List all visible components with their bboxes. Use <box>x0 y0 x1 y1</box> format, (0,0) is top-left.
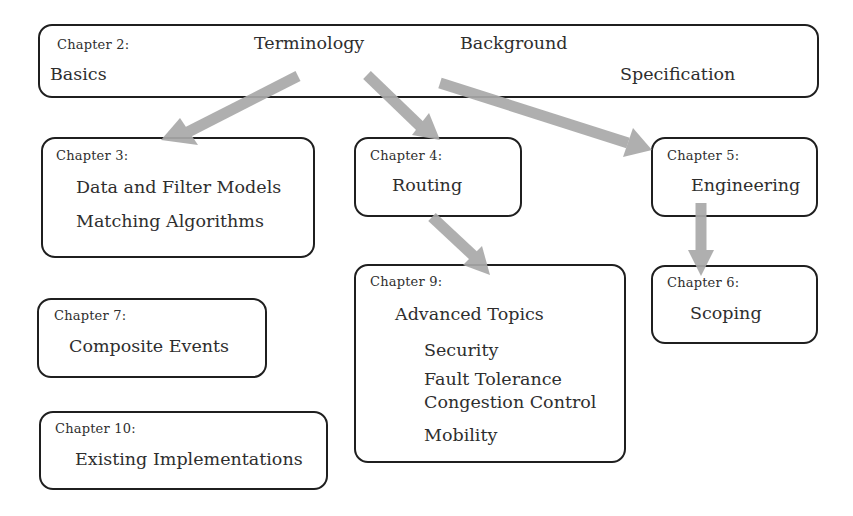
subtopic-security: Security <box>424 340 498 360</box>
subtopic-mobility: Mobility <box>424 425 497 445</box>
topic-data-filter-models: Data and Filter Models <box>76 177 281 197</box>
chapter-5-box: Chapter 5: Engineering <box>651 137 818 217</box>
topic-background: Background <box>460 33 568 53</box>
chapter-10-label: Chapter 10: <box>55 421 136 436</box>
chapter-5-label: Chapter 5: <box>667 148 739 163</box>
chapter-6-label: Chapter 6: <box>667 275 739 290</box>
topic-advanced-topics: Advanced Topics <box>395 304 544 324</box>
chapter-7-label: Chapter 7: <box>54 308 126 323</box>
topic-composite-events: Composite Events <box>69 336 229 356</box>
chapter-9-box: Chapter 9: Advanced Topics Security Faul… <box>354 264 626 463</box>
chapter-3-box: Chapter 3: Data and Filter Models Matchi… <box>41 137 315 258</box>
chapter-4-box: Chapter 4: Routing <box>354 137 522 217</box>
chapter-3-label: Chapter 3: <box>56 148 128 163</box>
topic-engineering: Engineering <box>691 175 800 195</box>
topic-basics: Basics <box>50 64 107 84</box>
subtopic-congestion-control: Congestion Control <box>424 392 596 412</box>
topic-scoping: Scoping <box>690 303 762 323</box>
chapter-6-box: Chapter 6: Scoping <box>651 265 818 344</box>
topic-routing: Routing <box>392 175 462 195</box>
topic-matching-algorithms: Matching Algorithms <box>76 211 264 231</box>
chapter-4-label: Chapter 4: <box>370 148 442 163</box>
subtopic-fault-tolerance: Fault Tolerance <box>424 369 562 389</box>
chapter-9-label: Chapter 9: <box>370 274 442 289</box>
chapter-10-box: Chapter 10: Existing Implementations <box>39 411 328 490</box>
chapter-2-box: Chapter 2: Terminology Background Basics… <box>38 24 819 98</box>
topic-existing-implementations: Existing Implementations <box>75 449 303 469</box>
topic-terminology: Terminology <box>254 33 364 53</box>
chapter-7-box: Chapter 7: Composite Events <box>37 298 267 378</box>
topic-specification: Specification <box>620 64 735 84</box>
chapter-2-label: Chapter 2: <box>57 37 129 52</box>
